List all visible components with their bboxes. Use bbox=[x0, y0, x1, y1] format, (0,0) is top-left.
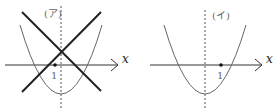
panel-a: 1 x (ア) bbox=[5, 6, 129, 109]
tick-label: 1 bbox=[217, 70, 223, 81]
diagram: 1 x (ア) 1 x (イ) bbox=[0, 0, 277, 109]
panel-label: (イ) bbox=[212, 10, 230, 21]
tick-label: 1 bbox=[51, 70, 57, 81]
panel-label: (ア) bbox=[44, 8, 62, 19]
axis-label: x bbox=[266, 52, 273, 66]
axis-label: x bbox=[122, 52, 129, 66]
point-one bbox=[53, 63, 57, 67]
point-one bbox=[219, 63, 223, 67]
panel-b: 1 x (イ) bbox=[150, 10, 273, 109]
